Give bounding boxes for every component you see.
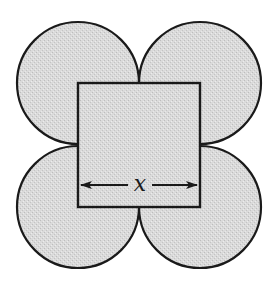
dimension-label: x (134, 171, 147, 196)
diagram-canvas: x (0, 0, 278, 287)
